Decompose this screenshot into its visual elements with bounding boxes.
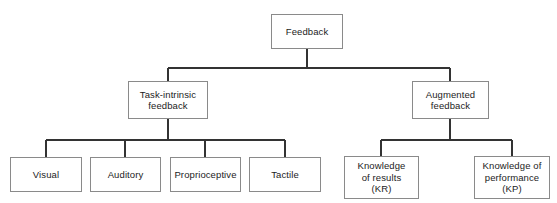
node-visual: Visual bbox=[10, 157, 82, 192]
node-proprioceptive: Proprioceptive bbox=[170, 157, 241, 192]
node-tactile: Tactile bbox=[249, 157, 321, 192]
node-augmented-feedback: Augmented feedback bbox=[412, 81, 489, 119]
node-task-intrinsic-feedback: Task-intrinsic feedback bbox=[128, 81, 208, 119]
node-feedback: Feedback bbox=[271, 14, 343, 49]
node-knowledge-of-results: Knowledge of results (KR) bbox=[344, 156, 419, 199]
node-auditory: Auditory bbox=[90, 157, 161, 192]
feedback-hierarchy-diagram: Feedback Task-intrinsic feedback Augment… bbox=[0, 0, 557, 203]
node-knowledge-of-performance: Knowledge of performance (KP) bbox=[474, 156, 550, 199]
